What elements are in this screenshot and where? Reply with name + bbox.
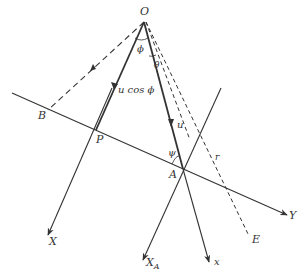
u-cos-phi-vector <box>96 22 144 130</box>
u-arrowhead <box>168 119 174 127</box>
label-r: r <box>215 152 220 162</box>
label-x-lower: x <box>214 256 220 267</box>
label-theta: θ <box>154 60 160 70</box>
oe-dashed-line <box>146 22 249 236</box>
label-p: P <box>95 133 104 146</box>
label-xa-axis: XA <box>145 256 160 271</box>
u-vector <box>144 22 183 169</box>
ob-arrowhead <box>90 64 96 71</box>
label-x-axis: X <box>48 235 58 248</box>
label-e: E <box>251 233 260 246</box>
xa-axis-line <box>143 88 221 260</box>
label-b: B <box>37 109 46 122</box>
label-y-axis: Y <box>289 209 298 222</box>
ob-dashed-line <box>48 22 144 110</box>
label-o: O <box>140 5 149 18</box>
label-u-cos-phi: u cos ϕ <box>118 84 155 95</box>
y-axis-line <box>12 93 287 215</box>
label-phi: ϕ <box>137 43 144 54</box>
label-a: A <box>168 168 177 181</box>
x-lower-axis-line <box>183 169 209 262</box>
label-u: u <box>177 119 183 130</box>
x-axis-line <box>48 88 112 235</box>
label-psi: ψ <box>168 147 176 158</box>
diagram-canvas: O B P A E X XA x Y ϕ θ ψ r u u cos ϕ <box>0 0 306 280</box>
